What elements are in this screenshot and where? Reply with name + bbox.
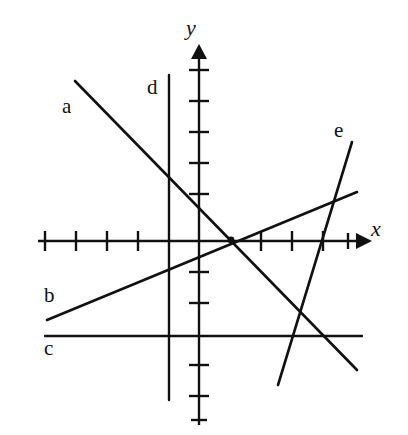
y-axis-label: y [186,17,196,39]
y-axis-arrowhead [191,44,207,59]
x-axis-arrowhead [356,233,372,249]
x-axis-label: x [371,218,381,240]
line-label-c: c [44,338,53,359]
line-label-b: b [44,285,55,306]
line-label-d: d [147,77,158,98]
y-axis-group [189,44,209,425]
line-e [278,142,352,385]
plot-canvas [0,0,408,435]
line-label-a: a [62,96,71,117]
line-a [75,81,357,370]
line-label-e: e [334,120,343,141]
coordinate-plane-figure: a b c d e x y [0,0,408,435]
intersection-point [228,237,235,244]
